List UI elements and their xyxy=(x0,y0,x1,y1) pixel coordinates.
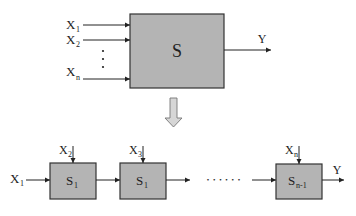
side-input-label: X xyxy=(129,143,138,157)
stage-1: S 1 X 2 xyxy=(50,143,96,199)
svg-text:n: n xyxy=(76,73,80,82)
svg-text:1: 1 xyxy=(74,181,78,190)
stage-n-minus-1: S n-1 X n xyxy=(276,143,322,199)
top-input-ellipsis xyxy=(102,50,104,68)
svg-text:S: S xyxy=(136,173,143,188)
svg-text:X: X xyxy=(10,171,20,186)
down-arrow-icon xyxy=(165,98,182,127)
svg-text:2: 2 xyxy=(76,40,80,49)
system-label: S xyxy=(172,41,182,61)
side-input-label: X xyxy=(285,143,294,157)
top-system: S X 1 X 2 X n Y xyxy=(66,14,271,88)
svg-text:n-1: n-1 xyxy=(296,181,307,190)
svg-text:S: S xyxy=(288,173,295,188)
top-input-x2: X 2 xyxy=(66,32,130,49)
side-input-label: X xyxy=(59,143,68,157)
svg-text:3: 3 xyxy=(138,150,142,159)
top-input-xn: X n xyxy=(66,64,130,82)
bottom-input-x1: X 1 xyxy=(10,171,50,188)
svg-text:1: 1 xyxy=(20,179,24,188)
top-output-y: Y xyxy=(224,32,271,50)
svg-text:2: 2 xyxy=(68,150,72,159)
svg-text:X: X xyxy=(66,17,76,32)
bottom-output-y: Y xyxy=(322,163,344,180)
stage-ellipsis: • • • • • • xyxy=(207,176,241,184)
svg-text:X: X xyxy=(66,64,76,79)
svg-text:S: S xyxy=(66,173,73,188)
bottom-cascade: X 1 S 1 X 2 S 1 X 3 • • • • • • xyxy=(10,143,344,199)
svg-text:X: X xyxy=(66,32,76,47)
stage-2: S 1 X 3 xyxy=(120,143,166,199)
svg-text:1: 1 xyxy=(144,181,148,190)
svg-text:n: n xyxy=(294,150,298,159)
svg-text:1: 1 xyxy=(76,25,80,34)
output-label: Y xyxy=(258,32,267,46)
output-label: Y xyxy=(333,163,342,177)
top-input-x1: X 1 xyxy=(66,17,130,34)
diagram-canvas: S X 1 X 2 X n Y xyxy=(0,0,356,216)
